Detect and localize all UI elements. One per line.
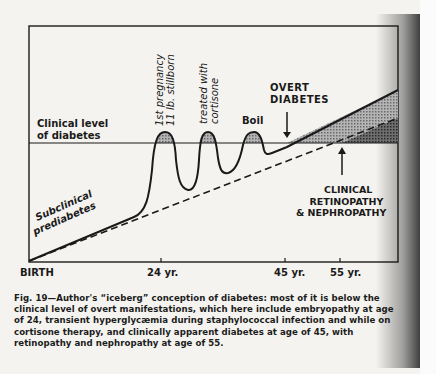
event-cortisone-label: treated with cortisone bbox=[198, 63, 220, 124]
clinical-complications-label: CLINICAL RETINOPATHY & NEPHROPATHY bbox=[296, 184, 386, 219]
event-boil-label: Boil bbox=[242, 115, 263, 126]
x-tick-55: 55 yr. bbox=[330, 267, 361, 278]
x-tick-45: 45 yr. bbox=[274, 267, 305, 278]
diagram-frame bbox=[29, 26, 398, 262]
figure-caption: Fig. 19—Author's “iceberg” conception of… bbox=[14, 293, 406, 349]
x-tick-24: 24 yr. bbox=[147, 267, 178, 278]
overt-diabetes-label: OVERT DIABETES bbox=[270, 82, 329, 106]
event-pregnancy-label: 1st pregnancy 11 lb. stillborn bbox=[154, 54, 176, 126]
x-tick-birth: BIRTH bbox=[20, 267, 54, 278]
clinical-level-label: Clinical level of diabetes bbox=[37, 118, 108, 142]
